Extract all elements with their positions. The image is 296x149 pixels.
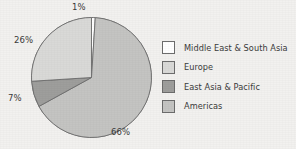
legend-item-middle-east-south-asia: Middle East & South Asia bbox=[162, 38, 294, 58]
slice-percent-label-east-asia-pacific: 7% bbox=[8, 94, 22, 103]
pie-slice-europe bbox=[32, 18, 92, 82]
slice-percent-label-americas: 66% bbox=[111, 128, 130, 137]
legend-label-americas: Americas bbox=[184, 102, 222, 110]
pie-slice-group bbox=[32, 18, 152, 138]
slice-percent-label-europe: 26% bbox=[14, 36, 33, 45]
legend-item-americas: Americas bbox=[162, 97, 294, 117]
legend-label-europe: Europe bbox=[184, 63, 213, 71]
legend-swatch-icon-middle-east-south-asia bbox=[162, 41, 175, 54]
chart-legend: Middle East & South Asia Europe East Asi… bbox=[162, 38, 294, 116]
legend-label-east-asia-pacific: East Asia & Pacific bbox=[184, 83, 260, 91]
legend-swatch-icon-europe bbox=[162, 61, 175, 74]
legend-item-europe: Europe bbox=[162, 58, 294, 78]
legend-label-middle-east-south-asia: Middle East & South Asia bbox=[184, 44, 288, 52]
legend-item-east-asia-pacific: East Asia & Pacific bbox=[162, 77, 294, 97]
slice-percent-label-middle-east-south-asia: 1% bbox=[72, 3, 86, 12]
legend-swatch-icon-east-asia-pacific bbox=[162, 80, 175, 93]
pie-chart-figure: 1% 26% 7% 66% Middle East & South Asia E… bbox=[0, 0, 296, 149]
legend-swatch-icon-americas bbox=[162, 100, 175, 113]
